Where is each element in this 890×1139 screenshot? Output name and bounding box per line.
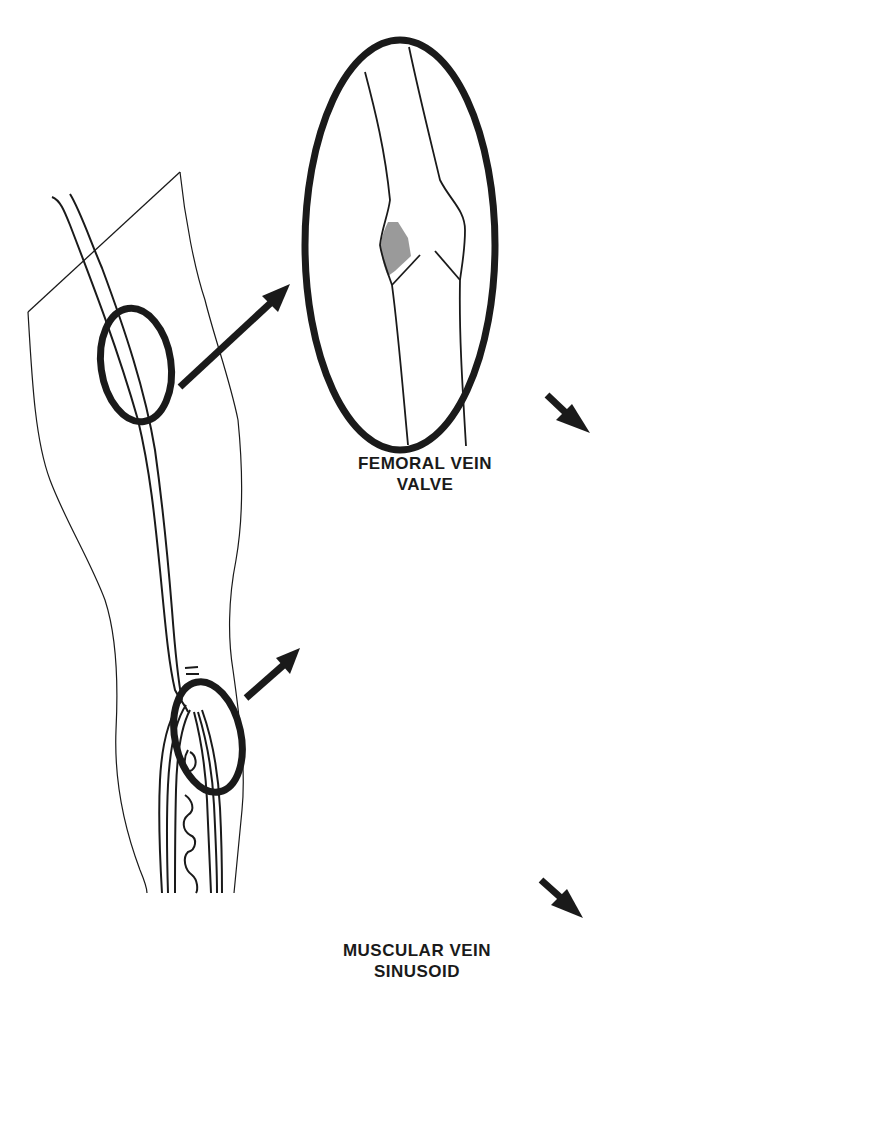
muscular-vein-sinusoid-label: MUSCULAR VEIN SINUSOID: [312, 940, 522, 982]
arrow-icon: [180, 284, 590, 918]
muscular-label-line1: MUSCULAR VEIN: [312, 940, 522, 961]
leg-outline-left: [28, 312, 147, 893]
femoral-label-line2: VALVE: [330, 474, 520, 495]
panel-femoral-valve-early: [305, 40, 495, 450]
leg-overview: [28, 172, 243, 893]
femoral-label-line1: FEMORAL VEIN: [330, 453, 520, 474]
thigh-top-edge: [28, 172, 180, 312]
muscular-label-line2: SINUSOID: [312, 961, 522, 982]
femoral-vein-left: [52, 197, 188, 712]
femoral-focus-circle: [93, 304, 178, 427]
femoral-vein-valve-label: FEMORAL VEIN VALVE: [330, 453, 520, 495]
